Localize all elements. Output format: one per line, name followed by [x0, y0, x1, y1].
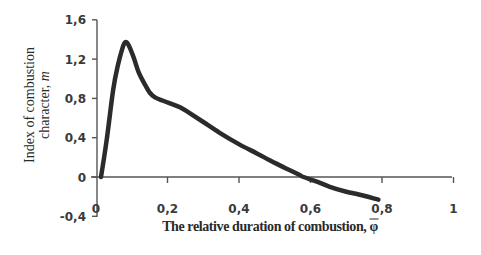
y-tick-label: 1,6 — [65, 13, 86, 27]
axes — [91, 20, 454, 217]
y-ticks — [92, 20, 97, 217]
y-tick-label: 0,8 — [65, 92, 86, 106]
y-axis-title-line1: Index of combustion — [22, 47, 37, 163]
x-tick-label: 0,8 — [371, 202, 392, 216]
svg-text:character, m: character, m — [37, 71, 52, 139]
data-series-curve — [101, 42, 378, 200]
x-axis-title: The relative duration of combustion, φ — [162, 219, 378, 234]
y-axis-symbol-m: m — [37, 71, 52, 81]
y-tick-label: 0,4 — [65, 131, 86, 145]
x-tick-label: 0,6 — [300, 202, 321, 216]
y-tick-label: -0,4 — [60, 210, 86, 224]
y-axis-title-line2: character, — [37, 81, 52, 139]
x-tick-label: 0,2 — [157, 202, 178, 216]
x-tick-labels: 00,20,40,60,81 — [92, 202, 458, 216]
svg-text:Index of combustion: Index of combustion — [22, 47, 37, 163]
x-tick-label: 1 — [449, 202, 457, 216]
svg-text:The relative duration of combu: The relative duration of combustion, φ — [162, 219, 378, 234]
y-tick-label: 1,2 — [65, 53, 86, 67]
line-chart: Index of combustion character, m 1,61,20… — [0, 0, 481, 255]
x-axis-title-text: The relative duration of combustion, — [162, 219, 369, 234]
y-tick-label: 0 — [78, 171, 86, 185]
y-axis-title: Index of combustion character, m — [22, 47, 52, 163]
x-tick-label: 0,4 — [228, 202, 249, 216]
y-tick-labels: 1,61,20,80,40-0,4 — [60, 13, 86, 224]
x-axis-symbol-phi: φ — [370, 219, 379, 234]
x-tick-label: 0 — [92, 202, 100, 216]
